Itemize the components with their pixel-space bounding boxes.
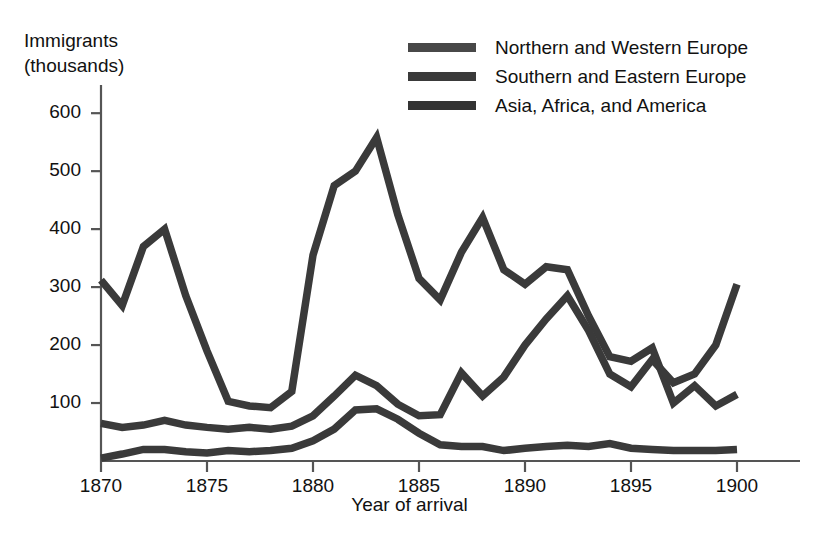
immigration-line-chart: Immigrants(thousands) Year of arrival No…	[0, 0, 819, 537]
series-lines	[101, 138, 737, 459]
plot-area	[0, 0, 819, 537]
